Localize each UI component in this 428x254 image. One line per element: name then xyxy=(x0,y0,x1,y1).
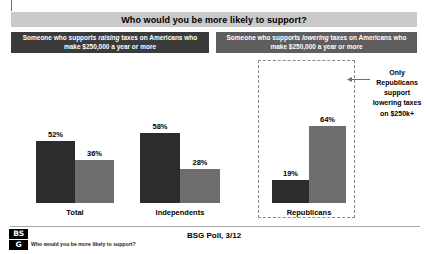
slide-title-band: Who would you be more likely to support? xyxy=(11,12,417,27)
bar-value-total-raising: 52% xyxy=(48,130,63,139)
bar-group-republicans: 19% 64% Republicans xyxy=(272,83,346,203)
bsg-logo: BS G xyxy=(9,229,28,250)
bar-value-independents-raising: 58% xyxy=(152,122,167,131)
footer-caption: Who would you be more likely to support? xyxy=(31,241,136,247)
bar-value-republicans-raising: 19% xyxy=(283,169,298,178)
bar-value-republicans-lowering: 64% xyxy=(320,115,335,124)
bsg-logo-bottom: G xyxy=(9,240,28,250)
category-label-independents: Independents xyxy=(140,208,220,217)
bar-republicans-raising: 19% xyxy=(272,180,309,203)
bar-group-independents: 58% 28% Independents xyxy=(140,83,220,203)
bar-total-lowering: 36% xyxy=(75,160,114,203)
legend-lowering-pre: Someone who supports xyxy=(226,34,301,41)
legend-label-raising: Someone who supports raising taxes on Am… xyxy=(14,34,206,52)
legend-box-lowering: Someone who supports lowering taxes on A… xyxy=(216,32,417,53)
bars-independents: 58% 28% xyxy=(140,83,220,203)
bsg-logo-top: BS xyxy=(9,229,28,239)
page-title: Who would you be more likely to support? xyxy=(121,15,307,25)
bar-republicans-lowering: 64% xyxy=(309,126,346,203)
legend-lowering-emphasis: lowering xyxy=(302,34,329,41)
bar-value-total-lowering: 36% xyxy=(87,149,102,158)
legend-raising-pre: Someone who supports xyxy=(23,34,98,41)
bar-independents-raising: 58% xyxy=(140,133,180,203)
annotation-republicans-callout: Only Republicans support lowering taxes … xyxy=(371,68,423,119)
legend-raising-emphasis: raising xyxy=(98,34,119,41)
annotation-arrow-icon xyxy=(347,76,371,83)
category-label-total: Total xyxy=(36,208,114,217)
category-label-republicans: Republicans xyxy=(272,208,346,217)
edge-tick-artifact xyxy=(11,0,12,11)
footer-divider xyxy=(10,226,420,227)
bars-republicans: 19% 64% xyxy=(272,83,346,203)
legend-label-lowering: Someone who supports lowering taxes on A… xyxy=(219,34,414,52)
bars-total: 52% 36% xyxy=(36,83,114,203)
bar-independents-lowering: 28% xyxy=(180,169,220,203)
bar-value-independents-lowering: 28% xyxy=(192,158,207,167)
legend-box-raising: Someone who supports raising taxes on Am… xyxy=(11,32,209,53)
bar-group-total: 52% 36% Total xyxy=(36,83,114,203)
bar-total-raising: 52% xyxy=(36,141,75,203)
footer-source: BSG Poll, 3/12 xyxy=(0,231,428,240)
